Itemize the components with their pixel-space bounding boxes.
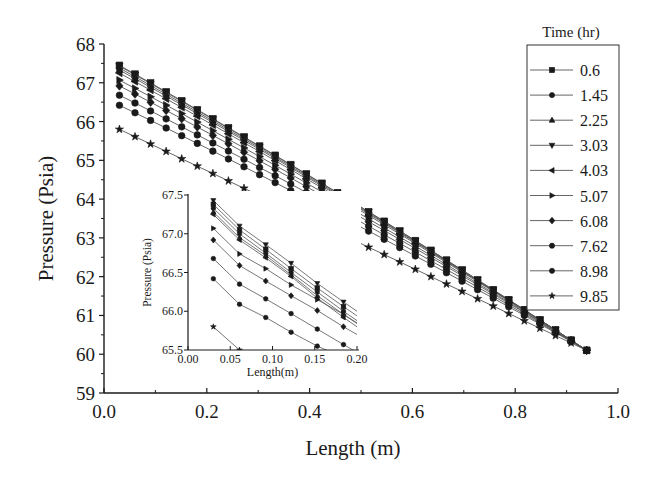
y-tick-label: 62 [76,267,95,288]
series-8.98-marker [428,261,435,268]
inset-y-tick-label: 67.5 [162,188,183,202]
inset-y-tick-label: 66.0 [162,304,183,318]
y-axis-title: Pressure (Psia) [34,156,58,281]
series-9.85-marker [115,125,123,133]
pressure-length-chart: 596061626364656667680.00.20.40.60.81.0Le… [0,0,658,487]
series-9.85-marker [147,140,155,148]
series-9.85-marker [427,272,435,280]
series-8.98-marker [474,286,481,293]
inset-series-8.98-marker [263,315,268,320]
series-9.85-marker [380,250,388,258]
inset-x-tick-label: 0.10 [262,352,283,366]
legend-label: 5.07 [580,188,608,205]
series-7.62-marker [163,116,170,123]
legend-label: 8.98 [580,263,608,280]
legend-label: 3.03 [580,137,608,154]
series-8.98-marker [459,278,466,285]
series-9.85-marker [240,184,248,192]
inset-y-tick-label: 66.5 [162,266,183,280]
y-tick-label: 65 [76,150,95,171]
series-7.62-marker [178,124,185,131]
series-9.85-marker [178,155,186,163]
inset-series-7.62-marker [237,282,242,287]
series-9.85-marker [489,302,497,310]
series-9.85-marker [411,265,419,273]
series-7.62-marker [287,181,294,188]
inset-series-8.98-marker [289,330,294,335]
series-9.85-marker [520,317,528,325]
series-8.98-marker [194,140,201,147]
inset-series-7.62-marker [315,327,320,332]
inset-x-tick-label: 0.05 [220,352,241,366]
inset-series-8.98-marker [211,276,216,281]
series-8.98-marker [116,102,123,109]
legend-0.6-marker [549,67,554,72]
inset-series-9.85-marker [288,386,294,391]
inset-x-tick-label: 0.00 [178,352,199,366]
inset-series-8.98-marker [315,344,320,349]
inset-series-7.62-marker [341,342,346,347]
x-tick-label: 0.2 [195,401,219,422]
series-7.62-marker [241,156,248,163]
series-8.98-marker [272,179,279,186]
inset-y-tick-label: 67.0 [162,227,183,241]
legend-label: 9.85 [580,288,608,305]
series-9.85-marker [458,287,466,295]
inset-series-7.62-marker [289,311,294,316]
series-8.98-marker [256,171,263,178]
legend-title: Time (hr) [542,24,599,41]
legend-label: 6.08 [580,213,608,230]
y-tick-label: 66 [76,112,95,133]
inset-series-8.98-marker [341,355,346,360]
series-8.98-marker [396,244,403,251]
inset-series-7.62-marker [263,297,268,302]
inset-series-0.6-marker [341,304,346,309]
series-7.62-marker [116,92,123,99]
inset-series-9.85-marker [341,417,347,422]
legend-label: 2.25 [580,112,608,129]
series-9.85-marker [442,280,450,288]
x-tick-label: 0.0 [92,401,116,422]
legend: Time (hr)0.61.452.253.034.035.076.087.62… [527,24,619,310]
series-9.85-marker [131,132,139,140]
x-tick-label: 0.4 [298,401,322,422]
series-8.98-marker [412,253,419,260]
inset-x-axis-title: Length(m) [247,365,298,379]
series-7.62-marker [194,132,201,139]
x-axis-title: Length (m) [305,436,400,460]
series-8.98-marker [163,125,170,132]
inset-series-7.62-marker [211,256,216,261]
series-9.85-marker [505,309,513,317]
series-9.85-marker [365,243,373,251]
x-tick-label: 0.8 [503,401,527,422]
series-9.85-marker [193,162,201,170]
series-8.98-marker [147,117,154,124]
series-7.62-marker [132,100,139,107]
series-8.98-marker [241,163,248,170]
y-tick-label: 60 [76,344,95,365]
y-tick-label: 68 [76,34,95,55]
inset-series-8.98-marker [237,302,242,307]
series-8.98-marker [365,228,372,235]
series-8.98-marker [132,110,139,117]
y-tick-label: 61 [76,305,95,326]
inset-x-tick-label: 0.15 [304,352,325,366]
legend-label: 1.45 [580,87,608,104]
x-tick-label: 1.0 [606,401,630,422]
legend-1.45-marker [549,93,554,98]
y-tick-label: 67 [76,73,95,94]
inset-y-axis-title: Pressure (Psia) [141,238,154,307]
legend-8.98-marker [549,268,554,273]
series-7.62-marker [210,140,217,147]
series-9.85-marker [224,177,232,185]
series-9.85-marker [396,258,404,266]
inset-x-tick-label: 0.20 [347,352,368,366]
series-9.85-marker [209,169,217,177]
series-7.62-marker [147,108,154,115]
series-8.98-marker [210,148,217,155]
series-7.62-marker [225,148,232,155]
series-8.98-marker [225,156,232,163]
x-tick-label: 0.6 [401,401,425,422]
y-tick-label: 64 [76,189,96,210]
legend-7.62-marker [549,243,554,248]
